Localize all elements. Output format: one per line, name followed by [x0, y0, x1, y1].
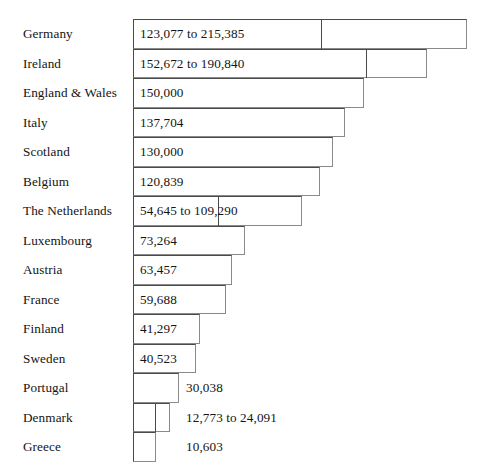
bar-value-label-inside: 150,000	[140, 78, 184, 108]
chart-row: Sweden40,523	[0, 344, 491, 374]
bar	[133, 432, 156, 462]
bar-value-label-inside: 152,672 to 190,840	[140, 49, 244, 79]
bar-range-divider	[366, 49, 367, 79]
bar-value-label-inside: 73,264	[140, 226, 177, 256]
bar-value-label-inside: 130,000	[140, 137, 184, 167]
bar-value-label-outside: 10,603	[186, 432, 223, 462]
chart-row: The Netherlands54,645 to 109,290	[0, 196, 491, 226]
category-label: Sweden	[23, 344, 65, 374]
bar-value-label-inside: 137,704	[140, 108, 184, 138]
bar-value-label-outside: 30,038	[186, 373, 223, 403]
bar-value-label-inside: 54,645 to 109,290	[140, 196, 238, 226]
category-label: Belgium	[23, 167, 69, 197]
category-label: Ireland	[23, 49, 61, 79]
category-label: Greece	[23, 432, 61, 462]
category-label: Finland	[23, 314, 64, 344]
chart-row: Denmark12,773 to 24,091	[0, 403, 491, 433]
chart-row: Greece10,603	[0, 432, 491, 462]
chart-row: Luxembourg73,264	[0, 226, 491, 256]
chart-row: Portugal30,038	[0, 373, 491, 403]
category-label: France	[23, 285, 59, 315]
bar-value-label-inside: 63,457	[140, 255, 177, 285]
bar-value-label-inside: 123,077 to 215,385	[140, 19, 244, 49]
category-label: Germany	[23, 19, 73, 49]
category-label: Italy	[23, 108, 48, 138]
chart-row: France59,688	[0, 285, 491, 315]
category-label: Denmark	[23, 403, 73, 433]
chart-canvas: Germany123,077 to 215,385Ireland152,672 …	[0, 0, 491, 474]
category-label: Portugal	[23, 373, 69, 403]
chart-row: Scotland130,000	[0, 137, 491, 167]
category-label: Scotland	[23, 137, 70, 167]
category-label: Luxembourg	[23, 226, 92, 256]
chart-row: Italy137,704	[0, 108, 491, 138]
bar	[133, 403, 170, 433]
bar-value-label-inside: 59,688	[140, 285, 177, 315]
bar-value-label-outside: 12,773 to 24,091	[186, 403, 277, 433]
chart-row: Belgium120,839	[0, 167, 491, 197]
bar	[133, 373, 179, 403]
bar-value-label-inside: 120,839	[140, 167, 184, 197]
bar-range-divider	[321, 19, 322, 49]
category-label: The Netherlands	[23, 196, 112, 226]
category-label: Austria	[23, 255, 63, 285]
bar-value-label-inside: 40,523	[140, 344, 177, 374]
bar-range-divider	[155, 403, 156, 433]
chart-row: England & Wales150,000	[0, 78, 491, 108]
category-label: England & Wales	[23, 78, 117, 108]
bar-value-label-inside: 41,297	[140, 314, 177, 344]
chart-row: Ireland152,672 to 190,840	[0, 49, 491, 79]
chart-row: Austria63,457	[0, 255, 491, 285]
chart-row: Germany123,077 to 215,385	[0, 19, 491, 49]
chart-row: Finland41,297	[0, 314, 491, 344]
